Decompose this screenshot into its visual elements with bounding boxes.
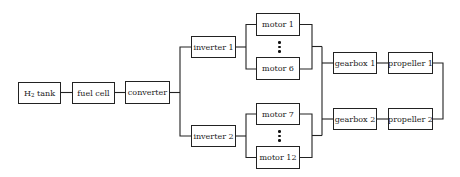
block-motor-7: motor 7 [256, 103, 300, 125]
block-propeller-2: propeller 2 [388, 108, 433, 130]
block-motor-6: motor 6 [256, 57, 300, 80]
block-motor-1: motor 1 [256, 13, 300, 36]
block-label: gearbox 2 [335, 115, 376, 124]
block-label: inverter 2 [193, 132, 233, 141]
block-fuel-cell: fuel cell [72, 82, 115, 104]
block-label: motor 6 [262, 64, 294, 73]
block-label: fuel cell [77, 89, 109, 98]
block-inverter-1: inverter 1 [191, 36, 236, 58]
block-label: converter [128, 88, 167, 97]
vertical-ellipsis-icon [278, 41, 281, 53]
vertical-ellipsis-icon [278, 130, 281, 142]
connector-lines [0, 0, 460, 177]
block-label: motor 7 [262, 110, 294, 119]
block-gearbox-2: gearbox 2 [333, 108, 377, 130]
block-propeller-1: propeller 1 [388, 52, 433, 74]
block-inverter-2: inverter 2 [191, 125, 236, 147]
block-label: H2 tank [24, 89, 55, 98]
block-motor-12: motor 12 [256, 146, 300, 169]
block-label: propeller 2 [388, 115, 433, 124]
block-label: propeller 1 [388, 59, 433, 68]
block-label: motor 1 [262, 20, 294, 29]
block-label: motor 12 [260, 153, 297, 162]
block-label: inverter 1 [193, 43, 233, 52]
block-gearbox-1: gearbox 1 [333, 52, 377, 74]
block-h2-tank: H2 tank [18, 82, 61, 104]
block-converter: converter [125, 81, 170, 104]
block-label: gearbox 1 [335, 59, 376, 68]
